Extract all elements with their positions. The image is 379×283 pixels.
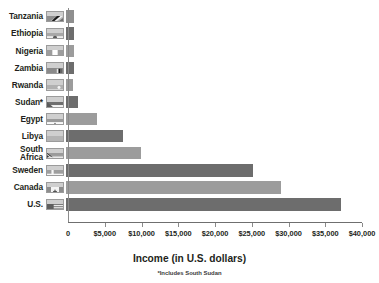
category-label: Libya <box>0 132 46 140</box>
bar <box>66 130 123 142</box>
bar-track <box>66 179 379 196</box>
chart-row: Zambia <box>0 59 379 76</box>
category-label: Ethiopia <box>0 29 46 37</box>
x-axis-tick-label: $20,000 <box>202 229 229 238</box>
south-africa-flag <box>46 148 64 160</box>
bar-track <box>66 111 379 128</box>
nigeria-flag <box>46 45 64 57</box>
category-label: Tanzania <box>0 12 46 20</box>
bar-track <box>66 93 379 110</box>
chart-row: Rwanda <box>0 76 379 93</box>
value-axis-line <box>68 8 69 223</box>
chart-row: Canada <box>0 179 379 196</box>
chart-footnote: *Includes South Sudan <box>0 270 379 276</box>
x-axis-tick-label: $10,000 <box>128 229 155 238</box>
category-label: Nigeria <box>0 47 46 55</box>
income-bar-chart: TanzaniaEthiopiaNigeriaZambiaRwandaSudan… <box>0 0 379 283</box>
bar-track <box>66 196 379 213</box>
chart-row: Nigeria <box>0 42 379 59</box>
united-states-flag <box>46 199 64 211</box>
ethiopia-flag <box>46 28 64 40</box>
canada-flag <box>46 182 64 194</box>
category-label: Sudan* <box>0 98 46 106</box>
category-label: Rwanda <box>0 81 46 89</box>
x-axis-tick <box>105 223 106 227</box>
category-label: U.S. <box>0 200 46 208</box>
bar <box>66 147 141 159</box>
chart-row: Egypt <box>0 111 379 128</box>
chart-row: Sudan* <box>0 93 379 110</box>
bar-track <box>66 25 379 42</box>
sudan-flag <box>46 96 64 108</box>
bar-track <box>66 76 379 93</box>
chart-row: South Africa <box>0 145 379 162</box>
chart-row: U.S. <box>0 196 379 213</box>
category-label: Canada <box>0 183 46 191</box>
zambia-flag <box>46 62 64 74</box>
bar <box>66 164 253 176</box>
x-axis-tick-label: $25,000 <box>238 229 265 238</box>
x-axis-tick <box>142 223 143 227</box>
bar <box>66 181 281 193</box>
bar-track <box>66 128 379 145</box>
category-label: Egypt <box>0 115 46 123</box>
libya-flag <box>46 130 64 142</box>
x-axis-tick-label: $30,000 <box>275 229 302 238</box>
rwanda-flag <box>46 79 64 91</box>
x-axis-tick <box>215 223 216 227</box>
sweden-flag <box>46 165 64 177</box>
tanzania-flag <box>46 11 64 23</box>
category-label: South Africa <box>0 145 46 162</box>
x-axis-tick <box>362 223 363 227</box>
bar-track <box>66 42 379 59</box>
x-axis-tick <box>178 223 179 227</box>
chart-row: Ethiopia <box>0 25 379 42</box>
x-axis-title: Income (in U.S. dollars) <box>0 253 379 264</box>
chart-row: Tanzania <box>0 8 379 25</box>
x-axis-tick-label: $40,000 <box>349 229 376 238</box>
bar <box>66 198 341 210</box>
egypt-flag <box>46 113 64 125</box>
x-axis-tick <box>289 223 290 227</box>
bar-track <box>66 145 379 162</box>
chart-row: Sweden <box>0 162 379 179</box>
x-axis-tick-label: $5,000 <box>93 229 116 238</box>
bar-track <box>66 59 379 76</box>
x-axis-tick-label: $15,000 <box>165 229 192 238</box>
chart-rows: TanzaniaEthiopiaNigeriaZambiaRwandaSudan… <box>0 8 379 223</box>
x-axis-tick-label: $35,000 <box>312 229 339 238</box>
x-axis-tick-label: 0 <box>66 229 70 238</box>
bar <box>66 113 97 125</box>
bar-track <box>66 8 379 25</box>
category-label: Zambia <box>0 64 46 72</box>
category-label: Sweden <box>0 166 46 174</box>
bar-track <box>66 162 379 179</box>
x-axis-tick <box>325 223 326 227</box>
chart-row: Libya <box>0 128 379 145</box>
x-axis-tick <box>252 223 253 227</box>
